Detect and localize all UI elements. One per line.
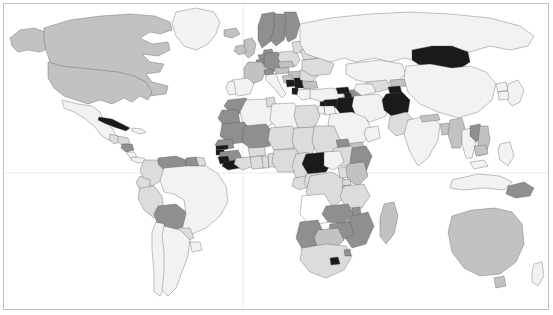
country-indonesia	[450, 174, 512, 190]
region-africa	[215, 97, 398, 278]
country-china	[404, 64, 496, 118]
country-india	[404, 116, 440, 166]
country-nicaragua	[121, 144, 134, 152]
country-gambia	[216, 145, 228, 150]
region-north-america	[10, 8, 220, 163]
country-bulgaria	[302, 81, 318, 89]
country-austria	[274, 67, 290, 74]
country-egypt	[294, 105, 320, 128]
country-uruguay	[190, 242, 202, 252]
country-kyrgyzstan	[390, 79, 406, 87]
world-choropleth-map-figure	[0, 0, 553, 315]
country-iceland	[224, 28, 240, 38]
country-burkina-faso	[248, 147, 266, 157]
region-oceania	[448, 182, 544, 288]
country-oman	[364, 126, 380, 142]
country-south-sudan	[324, 151, 344, 170]
map-canvas	[0, 0, 553, 315]
country-south-africa	[300, 244, 352, 278]
country-australia	[448, 208, 524, 276]
country-ghana	[250, 156, 264, 169]
country-papua-new-guinea	[506, 182, 534, 198]
country-malaysia	[470, 160, 488, 169]
region-asia	[404, 64, 524, 190]
country-israel	[318, 106, 325, 114]
country-cambodia	[474, 145, 488, 156]
country-tasmania	[494, 276, 506, 288]
country-greenland	[172, 8, 220, 50]
country-nepal	[420, 114, 440, 122]
country-honduras	[118, 136, 130, 145]
country-eswatini	[344, 249, 351, 256]
country-greece	[297, 89, 312, 100]
country-north-korea	[496, 82, 508, 92]
country-hispaniola	[132, 128, 146, 134]
country-czechia	[278, 61, 294, 68]
country-togo	[262, 156, 269, 168]
country-madagascar	[380, 202, 398, 244]
country-portugal	[226, 81, 236, 95]
country-lesotho	[330, 257, 340, 265]
country-philippines	[498, 142, 514, 166]
country-switzerland	[264, 69, 274, 75]
region-south-america	[136, 156, 228, 296]
country-argentina	[162, 226, 190, 296]
country-south-korea	[498, 91, 509, 100]
country-japan	[506, 80, 524, 106]
country-finland	[284, 12, 300, 42]
country-costa-rica	[126, 152, 137, 158]
country-new-zealand	[532, 262, 544, 286]
